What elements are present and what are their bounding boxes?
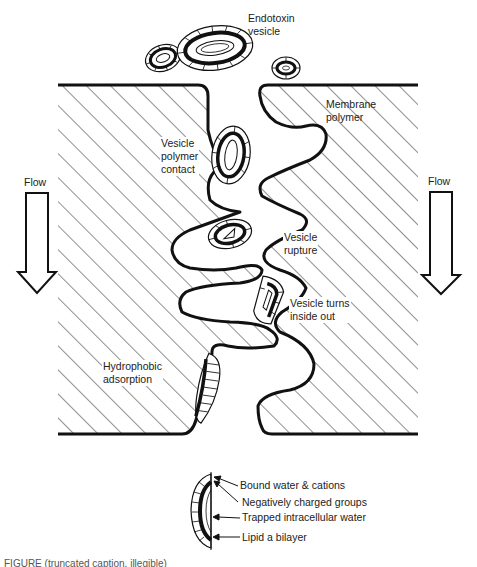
label-flow-left: Flow <box>24 176 46 189</box>
legend-item-trapped-water: Trapped intracellular water <box>242 511 366 524</box>
legend-vesicle-diagram <box>191 472 240 550</box>
figure-caption: FIGURE (truncated caption, illegible) <box>4 558 167 567</box>
label-vesicle-rupture: Vesicle rupture <box>283 231 318 257</box>
membrane-block-right <box>258 85 418 434</box>
label-membrane-polymer: Membrane polymer <box>326 98 376 124</box>
vesicle-contact <box>208 124 254 187</box>
label-hydrophobic-adsorption: Hydrophobic adsorption <box>102 360 163 386</box>
label-flow-right: Flow <box>428 175 450 188</box>
flow-arrow-left-icon <box>18 193 56 293</box>
legend-item-bound-water: Bound water & cations <box>240 479 345 492</box>
vesicle-small-left <box>142 40 185 77</box>
legend-item-lipid-bilayer: Lipid a bilayer <box>242 531 307 544</box>
vesicle-small-right <box>272 57 300 79</box>
label-vesicle-turns-inside-out: Vesicle turns inside out <box>289 297 351 323</box>
label-endotoxin-vesicle: Endotoxin vesicle <box>248 12 295 38</box>
legend-item-negative-groups: Negatively charged groups <box>242 496 367 509</box>
membrane-pore-diagram <box>0 0 477 567</box>
flow-arrow-right-icon <box>422 192 460 294</box>
label-vesicle-polymer-contact: Vesicle polymer contact <box>160 137 199 176</box>
vesicle-large <box>174 21 255 75</box>
